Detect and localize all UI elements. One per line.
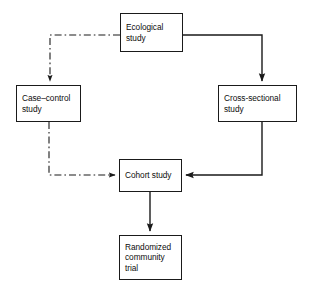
edge-case-control-to-cohort — [49, 122, 115, 175]
node-randomized-community-trial-label: Randomized community trial — [125, 242, 171, 273]
study-design-flow-diagram: Ecological study Case–control study Cros… — [0, 0, 312, 287]
node-cross-sectional-study-label: Cross-sectional study — [224, 93, 280, 113]
node-ecological-study-label: Ecological study — [126, 22, 163, 42]
edge-ecological-to-cross-sectional — [183, 35, 262, 81]
edge-cross-sectional-to-cohort — [186, 122, 262, 175]
node-case-control-study: Case–control study — [16, 85, 81, 122]
edge-ecological-to-case-control — [50, 35, 120, 81]
node-ecological-study: Ecological study — [120, 13, 183, 52]
node-case-control-study-label: Case–control study — [22, 93, 70, 113]
node-cross-sectional-study: Cross-sectional study — [218, 85, 297, 122]
node-randomized-community-trial: Randomized community trial — [119, 235, 182, 280]
node-cohort-study-label: Cohort study — [125, 170, 171, 180]
node-cohort-study: Cohort study — [119, 159, 182, 192]
